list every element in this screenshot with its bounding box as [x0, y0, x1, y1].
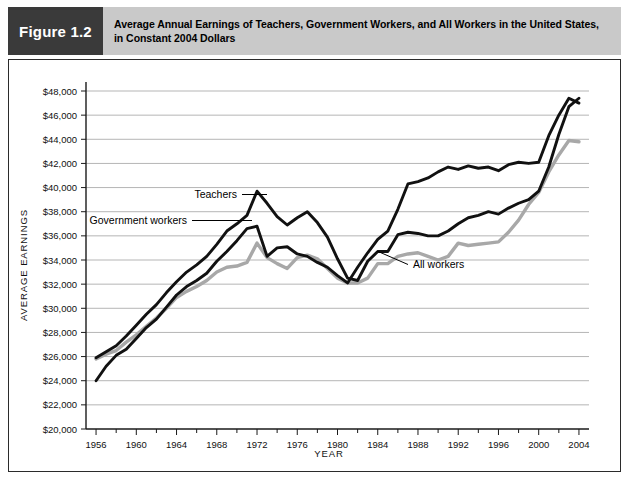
gridlines-group [86, 91, 589, 405]
x-axis-tick-label: 1996 [488, 439, 509, 450]
y-axis-tick-label: $22,000 [43, 399, 77, 410]
y-axis-title: AVERAGE EARNINGS [18, 209, 29, 321]
x-axis-tick-label: 1968 [206, 439, 227, 450]
figure-container: Figure 1.2 Average Annual Earnings of Te… [0, 0, 629, 481]
series-line-government-workers [96, 98, 579, 358]
y-axis-tick-label: $44,000 [43, 134, 77, 145]
y-axis-tick-label: $26,000 [43, 351, 77, 362]
line-chart: $20,000$22,000$24,000$26,000$28,000$30,0… [9, 60, 620, 471]
y-axis-tick-label: $20,000 [43, 424, 77, 435]
y-axis-tick-label: $24,000 [43, 375, 77, 386]
x-axis-tick-label: 2004 [568, 439, 589, 450]
x-axis-tick-label: 1992 [448, 439, 469, 450]
y-axis-tick-label: $32,000 [43, 279, 77, 290]
y-axis-tick-label: $38,000 [43, 206, 77, 217]
x-axis-tick-label: 1956 [85, 439, 106, 450]
x-axis-tick-label: 1988 [407, 439, 428, 450]
y-axis-ticks-group [81, 91, 86, 429]
x-axis-tick-label: 2000 [528, 439, 549, 450]
series-line-all-workers [96, 140, 579, 359]
x-axis-tick-label: 1964 [166, 439, 187, 450]
government-workers-annotation-label: Government workers [90, 214, 187, 226]
data-series-group [96, 98, 579, 380]
x-axis-ticks-group [96, 429, 579, 435]
figure-title-line-1: Average Annual Earnings of Teachers, Gov… [114, 17, 612, 31]
y-axis-tick-label: $30,000 [43, 303, 77, 314]
x-axis-tick-label: 1972 [246, 439, 267, 450]
y-axis-tick-label: $42,000 [43, 158, 77, 169]
series-annotations-group: TeachersGovernment workersAll workers [90, 188, 465, 270]
series-line-teachers [96, 98, 579, 380]
all-workers-annotation-label: All workers [413, 258, 464, 270]
x-axis-tick-label: 1960 [126, 439, 147, 450]
y-axis-tick-label: $36,000 [43, 230, 77, 241]
y-axis-tick-label: $34,000 [43, 255, 77, 266]
y-axis-tick-label: $48,000 [43, 86, 77, 97]
y-axis-tick-label: $40,000 [43, 182, 77, 193]
chart-frame: $20,000$22,000$24,000$26,000$28,000$30,0… [8, 59, 621, 472]
y-axis-tick-labels-group: $20,000$22,000$24,000$26,000$28,000$30,0… [43, 86, 77, 435]
figure-number-badge: Figure 1.2 [8, 7, 103, 55]
x-axis-tick-label: 1984 [367, 439, 388, 450]
x-axis-tick-label: 1976 [287, 439, 308, 450]
y-axis-tick-label: $46,000 [43, 110, 77, 121]
teachers-annotation-label: Teachers [194, 188, 237, 200]
x-axis-title: YEAR [314, 448, 343, 459]
figure-title-line-2: in Constant 2004 Dollars [114, 31, 612, 45]
figure-title-band: Average Annual Earnings of Teachers, Gov… [103, 7, 621, 55]
figure-header: Figure 1.2 Average Annual Earnings of Te… [8, 7, 621, 55]
y-axis-tick-label: $28,000 [43, 327, 77, 338]
